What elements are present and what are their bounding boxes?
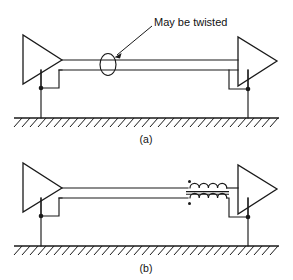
junction-dot-left-b — [39, 214, 44, 219]
ground-hatching-a — [14, 118, 278, 127]
transformer-primary-winding — [190, 183, 227, 188]
leader-line — [117, 26, 152, 55]
twist-indicator-ellipse — [100, 54, 116, 76]
amplifier-left-a — [23, 35, 62, 84]
signal-line-bottom-left-step-b — [41, 198, 62, 216]
polarity-dot-primary — [188, 180, 191, 183]
diagram-b: (b) — [14, 163, 279, 274]
amplifier-left-b — [23, 163, 62, 212]
amplifier-right-b — [238, 165, 277, 214]
polarity-dot-secondary — [188, 202, 191, 205]
ground-symbol-b — [14, 246, 279, 255]
amplifier-right-a — [238, 37, 277, 86]
junction-dot-right-b — [246, 215, 251, 220]
annotation-leader — [115, 26, 153, 59]
ground-hatching-b — [14, 246, 278, 255]
ground-symbol-a — [14, 118, 279, 127]
caption-b: (b) — [140, 262, 153, 274]
transformer-lead-bottom-step-b — [227, 198, 248, 217]
annotation-label: May be twisted — [154, 16, 227, 28]
caption-a: (a) — [140, 133, 153, 145]
signal-line-bottom-left-step-a — [41, 70, 62, 88]
junction-dot-left-a — [39, 86, 44, 91]
junction-dot-right-a — [246, 87, 251, 92]
figure-root: May be twisted — [0, 0, 293, 280]
diagram-a: May be twisted — [14, 16, 279, 145]
isolation-transformer — [186, 180, 229, 205]
